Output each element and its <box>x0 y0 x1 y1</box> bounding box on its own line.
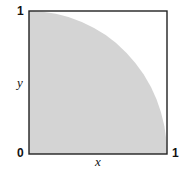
origin-label: 0 <box>17 147 24 159</box>
y-axis-label: y <box>17 76 23 89</box>
y-max-label: 1 <box>17 5 24 17</box>
x-axis-label: x <box>95 155 101 168</box>
x-max-label: 1 <box>172 147 179 159</box>
quarter-circle-region <box>29 11 167 154</box>
unit-square-diagram <box>0 0 182 169</box>
